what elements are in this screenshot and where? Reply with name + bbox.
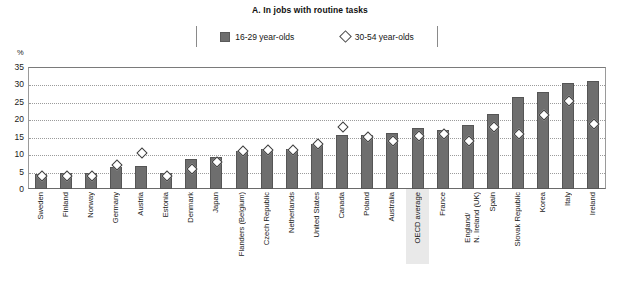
y-tick-label-25: 25 <box>0 98 24 106</box>
bar-group <box>103 67 128 189</box>
x-axis-label-sweden: Sweden <box>37 192 45 219</box>
y-tick-label-10: 10 <box>0 150 24 158</box>
x-axis-label-englandnirelanduk: England/ N. Ireland (UK) <box>464 192 481 243</box>
y-tick-label-0: 0 <box>0 185 24 193</box>
y-axis-unit: % <box>17 48 24 57</box>
x-axis-label-czechrepublic: Czech Republic <box>263 192 271 245</box>
y-tick-label-5: 5 <box>0 168 24 176</box>
bar-group <box>78 67 103 189</box>
bar-group <box>405 67 430 189</box>
chart-figure: A. In jobs with routine tasks 16-29 year… <box>0 0 620 286</box>
bar-canada <box>336 135 348 189</box>
bar-group <box>53 67 78 189</box>
x-axis-label-canada: Canada <box>338 192 346 219</box>
bar-korea <box>537 92 549 189</box>
bar-group <box>355 67 380 189</box>
legend-label-16-29: 16-29 year-olds <box>235 32 294 42</box>
x-axis-label-ireland: Ireland <box>589 192 597 215</box>
x-axis-label-netherlands: Netherlands <box>288 192 296 233</box>
legend-label-30-54: 30-54 year-olds <box>355 32 414 42</box>
x-axis-label-oecdaverage: OECD average <box>414 192 422 244</box>
x-axis-label-korea: Korea <box>539 192 547 212</box>
x-axis-label-finland: Finland <box>62 192 70 217</box>
legend-square-icon <box>220 32 230 42</box>
bar-group <box>531 67 556 189</box>
bar-group <box>154 67 179 189</box>
bar-group <box>455 67 480 189</box>
bar-group <box>581 67 606 189</box>
x-axis-label-spain: Spain <box>489 192 497 211</box>
bar-group <box>430 67 455 189</box>
bar-slovakrepublic <box>512 97 524 189</box>
bar-group <box>380 67 405 189</box>
bar-group <box>129 67 154 189</box>
x-axis-label-estonia: Estonia <box>162 192 170 217</box>
bar-austria <box>135 166 147 189</box>
y-tick-label-35: 35 <box>0 63 24 71</box>
bar-group <box>330 67 355 189</box>
bar-group <box>304 67 329 189</box>
data-series-layer <box>28 67 606 189</box>
bar-group <box>254 67 279 189</box>
legend-item-30-54: 30-54 year-olds <box>341 32 414 42</box>
marker-canada <box>337 121 348 132</box>
x-axis-label-flandersbelgium: Flanders (Belgium) <box>238 192 246 256</box>
bar-group <box>556 67 581 189</box>
legend-diamond-icon <box>339 30 352 43</box>
bar-flandersbelgium <box>236 151 248 189</box>
bar-group <box>480 67 505 189</box>
bar-ireland <box>587 81 599 189</box>
x-axis-label-austria: Austria <box>137 192 145 216</box>
bar-englandnirelanduk <box>462 125 474 189</box>
bar-poland <box>361 135 373 189</box>
chart-legend: 16-29 year-olds 30-54 year-olds <box>196 26 438 47</box>
bar-group <box>204 67 229 189</box>
x-axis-label-denmark: Denmark <box>187 192 195 223</box>
bar-group <box>505 67 530 189</box>
x-axis-label-italy: Italy <box>564 192 572 206</box>
x-axis-label-australia: Australia <box>388 192 396 222</box>
y-tick-label-20: 20 <box>0 115 24 123</box>
y-tick-label-30: 30 <box>0 80 24 88</box>
x-axis-label-slovakrepublic: Slovak Republic <box>514 192 522 246</box>
bar-germany <box>110 167 122 189</box>
x-axis-label-france: France <box>439 192 447 216</box>
page-title: A. In jobs with routine tasks <box>0 5 620 15</box>
x-axis-label-poland: Poland <box>363 192 371 216</box>
bar-unitedstates <box>311 144 323 189</box>
bar-group <box>28 67 53 189</box>
x-axis-label-japan: Japan <box>212 192 220 213</box>
bar-group <box>279 67 304 189</box>
y-tick-label-15: 15 <box>0 133 24 141</box>
marker-austria <box>136 147 147 158</box>
legend-item-16-29: 16-29 year-olds <box>220 32 294 42</box>
x-axis-label-unitedstates: United States <box>313 192 321 238</box>
bar-group <box>229 67 254 189</box>
bar-group <box>179 67 204 189</box>
x-axis-label-norway: Norway <box>87 192 95 218</box>
x-axis-categories: SwedenFinlandNorwayGermanyAustriaEstonia… <box>28 192 606 284</box>
x-axis-label-germany: Germany <box>112 192 120 223</box>
